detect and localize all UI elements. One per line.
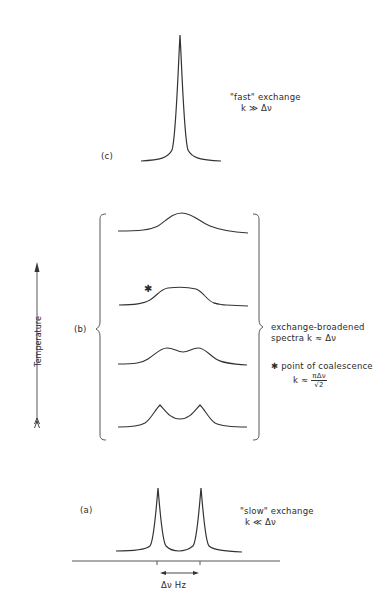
delta-nu-arrow-right-head bbox=[193, 571, 199, 575]
fast-exchange-peak bbox=[141, 35, 221, 161]
panel-a-tag: (a) bbox=[80, 505, 92, 516]
slow-exchange-condition: k ≪ Δν bbox=[245, 517, 276, 528]
fast-exchange-title: "fast" exchange bbox=[230, 92, 301, 103]
panel-c-tag: (c) bbox=[101, 151, 113, 162]
right-brace bbox=[253, 214, 263, 440]
broadened-spectrum-1 bbox=[118, 213, 248, 233]
coalescence-asterisk: ✱ bbox=[144, 283, 153, 294]
coalescence-spectrum-tail bbox=[214, 303, 226, 305]
delta-nu-axis-label: Δν Hz bbox=[161, 580, 186, 591]
broadened-title-line1: exchange-broadened bbox=[271, 322, 365, 333]
fast-exchange-condition: k ≫ Δν bbox=[241, 103, 272, 114]
broadened-title-line2: spectra k ≈ Δν bbox=[271, 333, 336, 344]
coalescence-label: ✱ point of coalescence bbox=[271, 361, 373, 372]
coalescence-fraction: πΔν √2 bbox=[311, 372, 327, 389]
left-brace bbox=[96, 214, 106, 440]
temperature-arrow-head bbox=[35, 262, 40, 272]
slow-exchange-title: "slow" exchange bbox=[240, 506, 314, 517]
fraction-denominator: √2 bbox=[311, 381, 327, 389]
broadened-spectrum-4 bbox=[118, 405, 247, 427]
coalescence-formula: k ≈ πΔν √2 bbox=[293, 372, 327, 389]
broadened-spectrum-3 bbox=[118, 348, 247, 365]
panel-b-tag: (b) bbox=[74, 324, 87, 335]
delta-nu-arrow-left-head bbox=[160, 571, 166, 575]
nmr-exchange-diagram bbox=[0, 0, 391, 616]
coalescence-spectrum bbox=[119, 287, 248, 306]
temperature-label: Temperature bbox=[34, 307, 43, 377]
fraction-numerator: πΔν bbox=[311, 372, 327, 381]
coalescence-formula-prefix: k ≈ bbox=[293, 375, 308, 385]
slow-exchange-peaks bbox=[116, 488, 242, 552]
